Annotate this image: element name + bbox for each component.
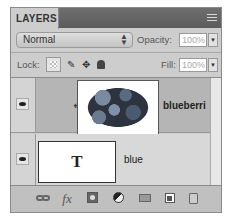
blend-row: Normal ▲▼ Opacity: 100% ▼	[11, 28, 221, 53]
fill-input[interactable]: 100%	[179, 58, 207, 72]
lock-transparent-pixels-icon[interactable]	[46, 57, 61, 72]
fill-dropdown-button[interactable]: ▼	[208, 58, 218, 72]
select-arrows-icon: ▲▼	[120, 34, 128, 46]
eye-visibility-icon[interactable]	[16, 98, 29, 110]
panel-menu-icon[interactable]	[207, 14, 217, 22]
layers-list: ↲ blueberri T blue	[11, 78, 210, 186]
layer-row[interactable]: ↲ blueberri	[11, 78, 210, 133]
blend-mode-value: Normal	[23, 34, 55, 45]
lock-image-pixels-icon[interactable]: ✎	[63, 57, 78, 72]
link-layers-icon[interactable]	[36, 192, 52, 205]
layer-name[interactable]: blueberri	[163, 100, 206, 111]
layer-name[interactable]: blue	[124, 154, 143, 165]
visibility-column	[11, 78, 36, 132]
add-mask-icon[interactable]	[87, 192, 99, 205]
new-group-icon[interactable]	[139, 192, 153, 205]
layer-row[interactable]: T blue	[11, 134, 210, 186]
visibility-column	[11, 134, 36, 186]
panel-tab-bar: LAYERS	[11, 8, 221, 28]
lock-position-icon[interactable]: ✥	[78, 57, 93, 72]
blend-mode-select[interactable]: Normal ▲▼	[16, 32, 133, 48]
delete-icon[interactable]	[189, 192, 201, 205]
layers-scrollbar[interactable]	[210, 78, 221, 186]
fx-icon[interactable]: fx	[59, 192, 75, 205]
new-layer-icon[interactable]	[165, 192, 177, 205]
tab-layers[interactable]: LAYERS	[11, 8, 59, 29]
layers-bottom-toolbar: fx	[11, 185, 221, 212]
opacity-dropdown-button[interactable]: ▼	[208, 33, 218, 47]
fill-label: Fill:	[161, 59, 176, 70]
opacity-label: Opacity:	[137, 34, 172, 45]
adjustment-layer-icon[interactable]	[113, 192, 127, 205]
lock-label: Lock:	[17, 59, 40, 70]
eye-visibility-icon[interactable]	[16, 153, 29, 165]
text-layer-thumbnail: T	[38, 141, 116, 183]
blueberries-image	[80, 83, 156, 132]
lock-row: Lock: ✎ ✥ Fill: 100% ▼	[11, 53, 221, 78]
layers-panel: LAYERS Normal ▲▼ Opacity: 100% ▼ Lock: ✎…	[10, 7, 222, 213]
opacity-input[interactable]: 100%	[179, 33, 207, 47]
layer-thumbnail-blueberries	[77, 80, 159, 135]
lock-all-icon[interactable]	[94, 57, 109, 72]
